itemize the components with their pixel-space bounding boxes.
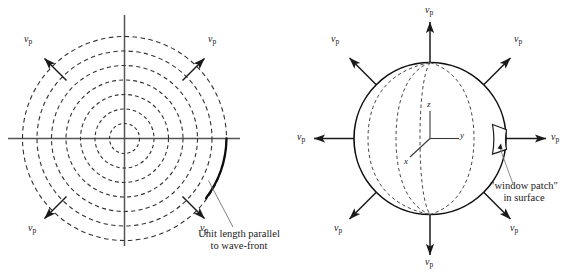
right-panel-group — [314, 22, 546, 255]
sphere-meridian — [420, 63, 430, 215]
axis-label-x: x — [404, 156, 408, 166]
label-vp-right-bottom: vp — [425, 256, 433, 267]
left-panel-group — [8, 15, 240, 246]
unit-length-annotation: Unit length parallel to wave-front — [189, 228, 289, 252]
label-vp-left-lower-left: vp — [28, 222, 36, 233]
label-vp-right-top: vp — [425, 4, 433, 15]
vp-subscript: p — [338, 226, 342, 235]
vp-subscript: p — [429, 260, 433, 269]
sphere-meridian — [396, 63, 430, 215]
vp-subscript: p — [429, 8, 433, 17]
axis-label-z: z — [427, 99, 431, 109]
label-vp-right-upper-left: vp — [331, 33, 339, 44]
label-vp-right-left: vp — [297, 131, 305, 142]
figure-canvas: vp vp vp vp Unit length parallel to wave… — [0, 0, 576, 277]
arrow-vp-upper-right — [183, 59, 205, 81]
vp-subscript: p — [212, 37, 216, 46]
coordinate-axes — [410, 111, 459, 157]
arrow-vp-upper-left — [45, 59, 67, 81]
unit-length-annotation-line1: Unit length parallel — [189, 228, 289, 240]
label-vp-right-right: vp — [551, 131, 559, 142]
vp-subscript: p — [514, 226, 518, 235]
vp-subscript: p — [518, 37, 522, 46]
window-patch-annotation-line2: in surface — [478, 192, 570, 204]
vp-subscript: p — [301, 135, 305, 144]
label-vp-right-upper-right: vp — [514, 33, 522, 44]
vp-subscript: p — [28, 37, 32, 46]
label-vp-left-upper-right: vp — [208, 33, 216, 44]
label-vp-right-lower-left: vp — [334, 222, 342, 233]
arrow-vp-lower-right — [183, 197, 205, 219]
axis-label-y: y — [460, 130, 464, 140]
label-vp-left-upper-left: vp — [24, 33, 32, 44]
arrow-vp-upper-left — [350, 58, 377, 85]
window-patch-annotation: "window patch" in surface — [478, 180, 570, 204]
unit-length-leader-line — [209, 181, 234, 228]
unit-length-arc — [206, 139, 227, 199]
vp-subscript: p — [335, 37, 339, 46]
vp-subscript: p — [32, 226, 36, 235]
arrow-vp-upper-right — [484, 58, 511, 85]
unit-length-annotation-line2: to wave-front — [189, 240, 289, 252]
label-vp-right-lower-right: vp — [510, 222, 518, 233]
sphere-meridian — [368, 63, 430, 215]
arrow-vp-lower-left — [45, 197, 67, 219]
vp-subscript: p — [555, 135, 559, 144]
window-patch-annotation-line1: "window patch" — [478, 180, 570, 192]
window-patch — [493, 125, 507, 155]
x-axis — [410, 139, 430, 158]
arrow-vp-lower-left — [350, 192, 377, 219]
